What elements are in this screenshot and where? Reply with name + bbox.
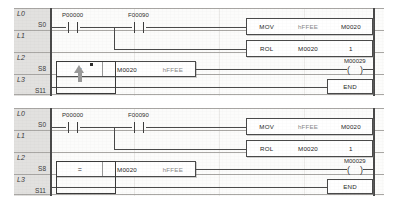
wire xyxy=(114,49,246,50)
wire xyxy=(146,127,246,128)
left-power-rail xyxy=(50,8,52,96)
row-label-l0: L0 xyxy=(17,110,25,117)
wire xyxy=(114,149,246,150)
step-label-s8: S8 xyxy=(24,165,46,172)
step-label-s0: S0 xyxy=(24,21,46,28)
contact-label-p00000: P00000 xyxy=(62,12,83,18)
rol-operand-1: M0020 xyxy=(286,145,329,152)
mov-operand-2: M0020 xyxy=(330,123,372,130)
wire xyxy=(52,127,66,128)
mov-operand-2: M0020 xyxy=(330,23,372,30)
mov-opcode: MOV xyxy=(247,23,286,30)
contact-p00000[interactable] xyxy=(66,22,80,33)
step-label-s11: S11 xyxy=(24,87,46,94)
contact-label-p00000: P00000 xyxy=(62,112,83,118)
contact-f00090[interactable] xyxy=(132,22,146,33)
rol-opcode: ROL xyxy=(247,145,286,152)
instruction-box-mov[interactable]: MOV hFFEE M0020 xyxy=(246,18,373,35)
instruction-box-rol[interactable]: ROL M0020 1 xyxy=(246,40,373,57)
wire xyxy=(80,27,132,28)
coil-label-m00029: M00029 xyxy=(344,158,366,164)
compare-operand-2: hFFEE xyxy=(151,66,195,73)
rol-operand-2: 1 xyxy=(330,45,372,52)
right-power-rail xyxy=(373,108,375,196)
ladder-panel-bottom[interactable]: L0 L1 L2 L3 L4 S0 S8 S11 P00000 F00090 M… xyxy=(14,108,384,196)
row-label-l3: L3 xyxy=(17,176,25,183)
row-label-l1: L1 xyxy=(17,32,25,39)
row-separator xyxy=(14,194,384,195)
contact-label-f00090: F00090 xyxy=(128,12,149,18)
rol-operand-2: 1 xyxy=(330,145,372,152)
selection-rectangle xyxy=(56,161,116,194)
mov-operand-1: hFFEE xyxy=(286,23,329,30)
row-separator xyxy=(14,108,384,109)
row-label-l2: L2 xyxy=(17,54,25,61)
step-label-s0: S0 xyxy=(24,121,46,128)
instruction-box-rol[interactable]: ROL M0020 1 xyxy=(246,140,373,157)
mov-operand-1: hFFEE xyxy=(286,123,329,130)
right-power-rail xyxy=(373,8,375,96)
row-label-l2: L2 xyxy=(17,154,25,161)
contact-p00000[interactable] xyxy=(66,122,80,133)
ladder-panel-top[interactable]: L0 L1 L2 L3 L4 S0 S8 S11 P00000 F00090 M… xyxy=(14,8,384,96)
rol-opcode: ROL xyxy=(247,45,286,52)
selection-rectangle xyxy=(56,61,116,94)
row-separator xyxy=(14,8,384,9)
cursor-anchor-dot xyxy=(90,63,93,66)
wire xyxy=(363,69,373,70)
output-coil-m00029[interactable]: () xyxy=(347,65,363,75)
output-coil-m00029[interactable]: () xyxy=(347,165,363,175)
row-separator xyxy=(14,94,384,95)
wire xyxy=(146,27,246,28)
contact-label-f00090: F00090 xyxy=(128,112,149,118)
wire xyxy=(196,169,347,170)
step-label-s8: S8 xyxy=(24,65,46,72)
rol-operand-1: M0020 xyxy=(286,45,329,52)
instruction-box-end[interactable]: END xyxy=(327,79,373,94)
wire xyxy=(80,127,132,128)
wire xyxy=(196,69,347,70)
row-label-l0: L0 xyxy=(17,10,25,17)
end-label: END xyxy=(328,83,372,90)
mouse-cursor xyxy=(74,65,85,82)
row-label-l4: L4 xyxy=(17,195,25,196)
branch-wire xyxy=(114,127,115,149)
instruction-box-mov[interactable]: MOV hFFEE M0020 xyxy=(246,118,373,135)
left-power-rail xyxy=(50,108,52,196)
coil-label-m00029: M00029 xyxy=(344,58,366,64)
wire xyxy=(52,27,66,28)
contact-f00090[interactable] xyxy=(132,122,146,133)
end-label: END xyxy=(328,183,372,190)
row-label-l4: L4 xyxy=(17,95,25,96)
step-label-s11: S11 xyxy=(24,187,46,194)
wire xyxy=(363,169,373,170)
row-label-l3: L3 xyxy=(17,76,25,83)
row-label-l1: L1 xyxy=(17,132,25,139)
instruction-box-end[interactable]: END xyxy=(327,179,373,194)
mov-opcode: MOV xyxy=(247,123,286,130)
branch-wire xyxy=(114,27,115,49)
compare-operand-2: hFFEE xyxy=(151,166,195,173)
